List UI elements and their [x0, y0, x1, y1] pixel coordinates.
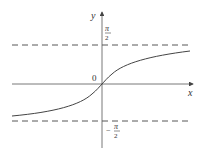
- x-axis-label: x: [187, 87, 193, 98]
- svg-text:π: π: [114, 122, 119, 131]
- svg-text:2: 2: [105, 34, 109, 42]
- svg-text:2: 2: [114, 132, 118, 140]
- upper-asymptote-label: π 2: [105, 24, 111, 42]
- arctan-graph: y x 0 π 2 − π 2: [0, 0, 203, 156]
- svg-text:−: −: [106, 126, 111, 135]
- origin-label: 0: [92, 73, 97, 83]
- svg-text:π: π: [105, 24, 110, 33]
- lower-asymptote-label: − π 2: [106, 122, 120, 140]
- y-axis-label: y: [90, 10, 96, 21]
- arctan-curve: [12, 51, 190, 116]
